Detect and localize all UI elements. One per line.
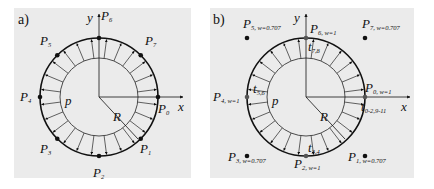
x-axis-label-b: x	[400, 99, 407, 114]
control-point-2	[304, 154, 309, 159]
control-point-7	[363, 36, 368, 41]
panel-a: a) x y p R P0P1P2P3P4P5P6P7	[14, 8, 191, 180]
control-point-6	[304, 36, 309, 41]
pressure-label-a: p	[64, 93, 72, 108]
y-axis-label-b: y	[292, 10, 300, 25]
control-point-4	[245, 95, 250, 100]
control-point-0	[156, 95, 161, 100]
panel-a-tag: a)	[18, 12, 29, 28]
y-axis-label-a: y	[85, 10, 93, 25]
control-point-0	[363, 95, 368, 100]
control-point-7	[138, 53, 143, 58]
control-point-5	[245, 36, 250, 41]
x-axis-label-a: x	[177, 99, 184, 114]
panel-b: b) x y p R t0-2,9-11 t3,4 t5,6 t7,8 P0, …	[210, 8, 414, 178]
figure: a) x y p R P0P1P2P3P4P5P6P7 b) x y p R t…	[0, 0, 434, 189]
panel-b-tag: b)	[213, 12, 225, 28]
control-point-4	[38, 95, 43, 100]
control-point-2	[97, 154, 102, 159]
control-point-3	[55, 136, 60, 141]
control-point-5	[55, 53, 60, 58]
pressure-label-b: p	[271, 93, 279, 108]
radius-label-b: R	[319, 109, 328, 124]
control-point-6	[97, 36, 102, 41]
radius-label-a: R	[112, 109, 121, 124]
